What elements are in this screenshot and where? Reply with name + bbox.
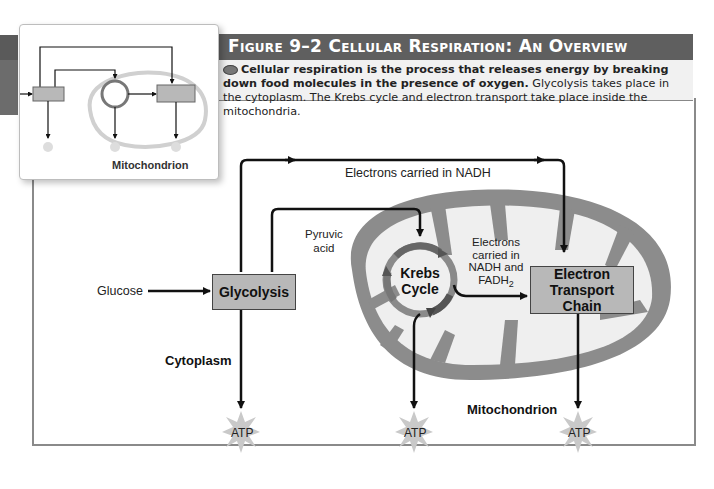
atp-label-1: ATP [231,426,253,440]
mitochondrion-label: Mitochondrion [467,402,557,417]
pyruvic-label-line1: Pyruvic [305,227,343,241]
fadh-subscript: 2 [509,279,514,289]
electron-transport-chain-box: Electron Transport Chain [530,266,634,314]
pyruvic-label-line2: acid [305,241,343,255]
atp-label-2: ATP [404,426,426,440]
krebs-label-line1: Krebs [398,265,442,281]
thumbnail-mitochondrion-label: Mitochondrion [112,159,188,171]
etc-label-line2: Transport Chain [531,282,633,314]
nadh-fadh2-label: Electrons carried in NADH and FADH2 [460,236,532,290]
thumbnail-diagram [20,25,218,179]
glycolysis-box: Glycolysis [212,274,296,310]
fadh-label-line1: Electrons [460,236,532,249]
pyruvic-acid-label: Pyruvic acid [305,227,343,255]
fadh-label-line4: FADH2 [460,274,532,291]
cytoplasm-label: Cytoplasm [165,353,231,368]
overview-thumbnail: Mitochondrion [19,24,219,180]
fadh-label-line3: NADH and [460,261,532,274]
etc-label-line1: Electron [554,266,610,282]
glucose-label: Glucose [97,284,143,298]
nadh-label: Electrons carried in NADH [345,166,491,180]
krebs-label-line2: Cycle [398,281,442,297]
fadh-text: FADH [478,274,509,286]
atp-label-3: ATP [568,426,590,440]
fadh-label-line2: carried in [460,249,532,262]
krebs-cycle-label: Krebs Cycle [398,265,442,297]
